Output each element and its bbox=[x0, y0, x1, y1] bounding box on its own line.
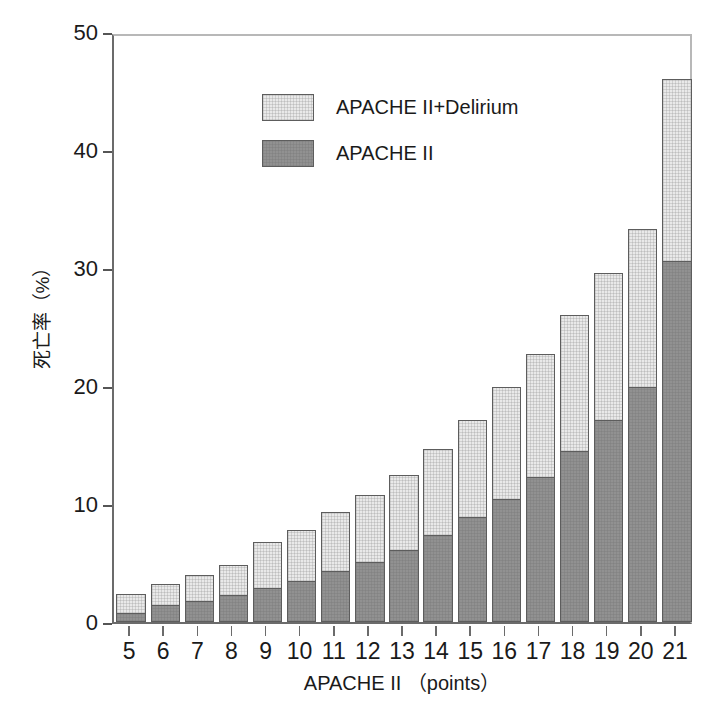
legend-swatch-apache-ii bbox=[262, 140, 314, 167]
x-tick-mark bbox=[504, 626, 506, 636]
chart-legend: APACHE II+Delirium APACHE II bbox=[262, 84, 518, 176]
bar-segment-apache-ii-delirium bbox=[287, 530, 316, 581]
x-tick-mark bbox=[197, 626, 199, 636]
x-tick-label: 13 bbox=[385, 640, 419, 663]
bar-group bbox=[321, 512, 350, 622]
chart-figure: 死亡率（%） 01020304050 APACHE II+Delirium AP… bbox=[0, 0, 725, 707]
y-tick-mark bbox=[103, 33, 112, 35]
bar-segment-apache-ii bbox=[253, 588, 282, 622]
bar-group bbox=[594, 273, 623, 622]
x-tick-label: 12 bbox=[351, 640, 385, 663]
bar-group bbox=[287, 530, 316, 622]
x-tick-label: 16 bbox=[487, 640, 521, 663]
y-tick-mark bbox=[103, 623, 112, 625]
bar-segment-apache-ii-delirium bbox=[526, 354, 555, 477]
bar-segment-apache-ii-delirium bbox=[185, 575, 214, 601]
x-tick-mark bbox=[401, 626, 403, 636]
x-tick-mark bbox=[128, 626, 130, 636]
x-tick-mark bbox=[265, 626, 267, 636]
y-tick-label: 10 bbox=[52, 494, 98, 516]
bar-segment-apache-ii bbox=[151, 605, 180, 622]
x-tick-mark bbox=[606, 626, 608, 636]
x-tick-label: 20 bbox=[624, 640, 658, 663]
bar-segment-apache-ii-delirium bbox=[355, 495, 384, 562]
x-tick-label: 7 bbox=[180, 640, 214, 663]
bar-group bbox=[389, 475, 418, 622]
plot-area: APACHE II+Delirium APACHE II bbox=[112, 34, 692, 624]
legend-item-delirium: APACHE II+Delirium bbox=[262, 84, 518, 130]
bar-segment-apache-ii-delirium bbox=[594, 273, 623, 421]
x-tick-label: 9 bbox=[248, 640, 282, 663]
x-tick-mark bbox=[299, 626, 301, 636]
bar-segment-apache-ii bbox=[628, 387, 657, 622]
x-tick-label: 19 bbox=[590, 640, 624, 663]
bar-segment-apache-ii bbox=[116, 613, 145, 622]
x-tick-mark bbox=[674, 626, 676, 636]
x-tick-mark bbox=[640, 626, 642, 636]
x-tick-mark bbox=[231, 626, 233, 636]
bar-group bbox=[253, 542, 282, 622]
bar-group bbox=[423, 449, 452, 622]
x-tick-label: 5 bbox=[112, 640, 146, 663]
x-tick-label: 18 bbox=[556, 640, 590, 663]
bar-segment-apache-ii bbox=[458, 517, 487, 622]
bar-segment-apache-ii-delirium bbox=[389, 475, 418, 551]
bar-segment-apache-ii-delirium bbox=[321, 512, 350, 571]
bar-segment-apache-ii-delirium bbox=[116, 594, 145, 613]
y-tick-mark bbox=[103, 151, 112, 153]
x-axis-title: APACHE II （points） bbox=[112, 667, 692, 696]
y-tick-label: 40 bbox=[52, 140, 98, 162]
x-tick-label: 8 bbox=[214, 640, 248, 663]
bar-segment-apache-ii-delirium bbox=[151, 584, 180, 605]
x-tick-label: 21 bbox=[658, 640, 692, 663]
bar-group bbox=[628, 229, 657, 622]
x-tick-mark bbox=[572, 626, 574, 636]
y-tick-label: 30 bbox=[52, 258, 98, 280]
x-tick-mark bbox=[162, 626, 164, 636]
bar-segment-apache-ii-delirium bbox=[662, 79, 691, 261]
x-tick-mark bbox=[333, 626, 335, 636]
bar-segment-apache-ii bbox=[321, 571, 350, 622]
y-tick-label: 20 bbox=[52, 376, 98, 398]
bar-segment-apache-ii bbox=[219, 595, 248, 622]
legend-swatch-apache-ii-delirium bbox=[262, 94, 314, 121]
bar-segment-apache-ii-delirium bbox=[560, 315, 589, 451]
legend-item-apache: APACHE II bbox=[262, 130, 518, 176]
bar-segment-apache-ii bbox=[287, 581, 316, 622]
bar-segment-apache-ii-delirium bbox=[423, 449, 452, 535]
bar-group bbox=[526, 354, 555, 622]
x-tick-mark bbox=[367, 626, 369, 636]
x-tick-label: 15 bbox=[453, 640, 487, 663]
x-tick-label: 17 bbox=[521, 640, 555, 663]
bar-group bbox=[662, 79, 691, 622]
bar-group bbox=[116, 594, 145, 622]
bar-segment-apache-ii bbox=[492, 499, 521, 622]
bar-segment-apache-ii bbox=[594, 420, 623, 622]
bar-group bbox=[560, 315, 589, 622]
y-tick-mark bbox=[103, 505, 112, 507]
bar-segment-apache-ii bbox=[185, 601, 214, 622]
x-tick-label: 11 bbox=[317, 640, 351, 663]
x-tick-mark bbox=[469, 626, 471, 636]
bar-segment-apache-ii bbox=[560, 451, 589, 622]
bar-segment-apache-ii bbox=[423, 535, 452, 622]
bar-group bbox=[492, 387, 521, 622]
x-tick-mark bbox=[538, 626, 540, 636]
y-axis-title: 死亡率（%） bbox=[27, 214, 54, 414]
x-tick-label: 6 bbox=[146, 640, 180, 663]
y-tick-mark bbox=[103, 387, 112, 389]
bar-group bbox=[219, 565, 248, 622]
bar-segment-apache-ii bbox=[389, 550, 418, 622]
x-tick-mark bbox=[435, 626, 437, 636]
legend-label-apache-ii-delirium: APACHE II+Delirium bbox=[336, 96, 518, 119]
x-tick-label: 10 bbox=[283, 640, 317, 663]
bar-group bbox=[458, 420, 487, 622]
bar-group bbox=[355, 495, 384, 622]
y-tick-mark bbox=[103, 269, 112, 271]
bar-segment-apache-ii-delirium bbox=[253, 542, 282, 588]
bar-segment-apache-ii bbox=[355, 562, 384, 622]
y-tick-label: 0 bbox=[52, 612, 98, 634]
x-tick-label: 14 bbox=[419, 640, 453, 663]
bar-segment-apache-ii-delirium bbox=[458, 420, 487, 517]
bar-segment-apache-ii-delirium bbox=[492, 387, 521, 499]
